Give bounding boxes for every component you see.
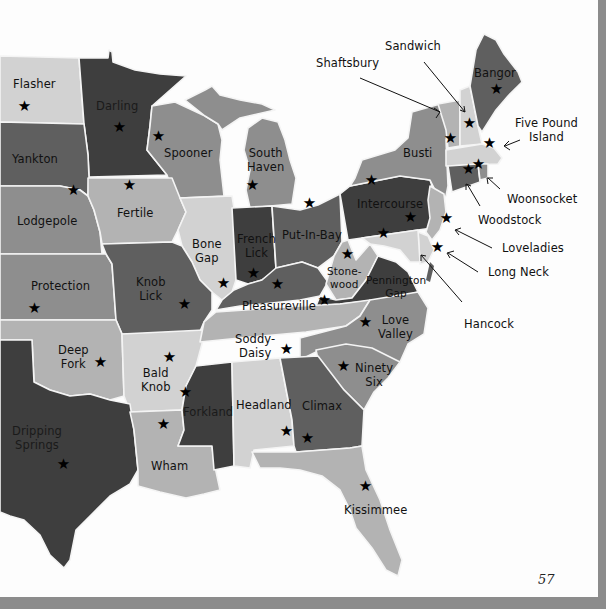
label-wham: Wham xyxy=(151,459,188,473)
label-protection: Protection xyxy=(31,279,90,293)
star-icon-yankton: ★ xyxy=(66,183,81,198)
star-icon-french-lick: ★ xyxy=(246,266,261,281)
star-icon-ninety-six: ★ xyxy=(336,359,351,374)
star-icon-bone-gap: ★ xyxy=(216,276,231,291)
star-icon-knob-lick: ★ xyxy=(177,297,192,312)
callout-sandwich: Sandwich xyxy=(385,39,441,53)
label-forkland: Forkland xyxy=(183,405,233,419)
label-put-in-bay: Put-In-Bay xyxy=(282,228,342,242)
star-icon-woodstock: ★ xyxy=(461,162,476,177)
label-climax: Climax xyxy=(302,399,342,413)
star-icon-five-pound-island: ★ xyxy=(482,136,497,151)
star-icon-sandwich: ★ xyxy=(462,116,477,131)
page-number: 57 xyxy=(538,572,555,587)
label-deep-fork: DeepFork xyxy=(58,343,89,371)
star-icon-pennington-gap: ★ xyxy=(317,293,332,308)
star-icon-intercourse: ★ xyxy=(403,210,418,225)
label-lodgepole: Lodgepole xyxy=(17,214,77,228)
star-icon-long-neck: ★ xyxy=(430,240,445,255)
star-icon-loveladies: ★ xyxy=(439,211,454,226)
star-icon-deep-fork: ★ xyxy=(93,355,108,370)
star-icon-put-in-bay: ★ xyxy=(302,196,317,211)
label-french-lick: FrenchLick xyxy=(237,232,276,260)
star-icon-flasher: ★ xyxy=(17,99,32,114)
label-darling: Darling xyxy=(96,99,138,113)
label-yankton: Yankton xyxy=(12,152,58,166)
star-icon-soddy-daisy: ★ xyxy=(279,342,294,357)
callout-long-neck: Long Neck xyxy=(488,265,549,279)
callout-loveladies: Loveladies xyxy=(502,241,564,255)
callout-woonsocket: Woonsocket xyxy=(507,192,577,206)
star-icon-headland: ★ xyxy=(279,424,294,439)
label-flasher: Flasher xyxy=(13,77,56,91)
label-bangor: Bangor xyxy=(474,66,516,80)
label-bald-knob: BaldKnob xyxy=(141,366,171,394)
label-ninety-six: NinetySix xyxy=(355,361,393,389)
star-icon-pleasureville: ★ xyxy=(270,277,285,292)
star-icon-wham: ★ xyxy=(156,417,171,432)
star-icon-forkland: ★ xyxy=(178,385,193,400)
callout-five-pound-island: Five PoundIsland xyxy=(515,116,578,144)
label-dripping-springs: DrippingSprings xyxy=(12,424,62,452)
star-icon-south-haven: ★ xyxy=(245,178,260,193)
star-icon-bangor: ★ xyxy=(489,82,504,97)
star-icon-fertile: ★ xyxy=(122,178,137,193)
label-busti: Busti xyxy=(403,146,432,160)
callout-woodstock: Woodstock xyxy=(478,213,542,227)
book-page: Flasher Darling Yankton Spooner SouthHav… xyxy=(0,0,606,609)
label-love-valley: LoveValley xyxy=(378,313,413,341)
star-icon-shaftsbury: ★ xyxy=(443,131,458,146)
callout-shaftsbury: Shaftsbury xyxy=(316,56,379,70)
star-icon-climax: ★ xyxy=(300,431,315,446)
label-headland: Headland xyxy=(236,398,292,412)
label-knob-lick: KnobLick xyxy=(136,275,166,303)
callout-hancock: Hancock xyxy=(464,317,514,331)
star-icon-spooner: ★ xyxy=(151,129,166,144)
star-icon-bald-knob: ★ xyxy=(162,350,177,365)
star-icon-protection: ★ xyxy=(27,301,42,316)
label-bone-gap: BoneGap xyxy=(192,237,222,265)
label-soddy-daisy: Soddy-Daisy xyxy=(235,332,275,360)
label-south-haven: SouthHaven xyxy=(247,146,284,174)
label-fertile: Fertile xyxy=(117,206,153,220)
label-stonewood: Stone-wood xyxy=(327,265,362,291)
star-icon-stonewood: ★ xyxy=(340,247,355,262)
star-icon-love-valley: ★ xyxy=(358,315,373,330)
label-kissimmee: Kissimmee xyxy=(344,503,407,517)
star-icon-darling: ★ xyxy=(112,120,127,135)
star-icon-pa-border: ★ xyxy=(376,226,391,241)
label-spooner: Spooner xyxy=(164,146,212,160)
label-pleasureville: Pleasureville xyxy=(242,299,316,313)
star-icon-busti: ★ xyxy=(364,173,379,188)
label-pennington-gap: PenningtonGap xyxy=(366,274,426,300)
star-icon-dripping-springs: ★ xyxy=(56,457,71,472)
star-icon-kissimmee: ★ xyxy=(358,479,373,494)
